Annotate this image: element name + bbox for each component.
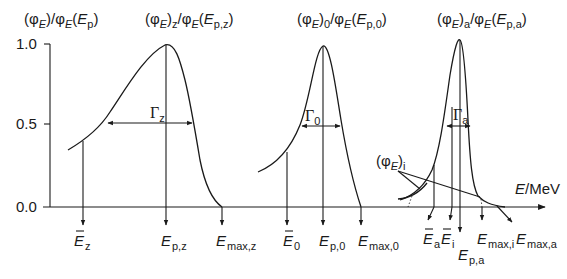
svg-text:max,0: max,0: [369, 240, 399, 252]
y-tick-label-1: 1.0: [16, 35, 37, 52]
y-tick-label-0: 0.0: [16, 198, 37, 215]
arrow-Emax-a: [497, 206, 512, 222]
x-marker-Emax-a: E max,a: [516, 230, 558, 250]
svg-text:E: E: [358, 232, 369, 249]
svg-text:max,a: max,a: [527, 238, 558, 250]
x-marker-Emax-z: E max,z: [216, 232, 256, 252]
svg-text:0: 0: [294, 240, 300, 252]
pointer-phi-i-2: [398, 171, 480, 197]
svg-text:a: a: [434, 238, 441, 250]
dotted-phi-i: [408, 196, 412, 207]
svg-text:E: E: [516, 230, 527, 247]
peak-z-curve: [68, 45, 222, 207]
svg-text:E: E: [216, 232, 227, 249]
gamma-z-label: Γz: [150, 104, 165, 124]
peak-a-title: (φE)a/φE(Ep,a): [437, 10, 527, 30]
svg-text:E: E: [283, 232, 294, 249]
x-marker-Ebar-0: E 0: [283, 231, 300, 252]
phi-i-label: (φE)i: [376, 152, 406, 172]
svg-text:z: z: [85, 240, 91, 252]
y-tick-label-05: 0.5: [16, 115, 37, 132]
svg-text:max,z: max,z: [227, 240, 256, 252]
dotted-Emax-i: [481, 199, 482, 207]
svg-text:i: i: [452, 238, 454, 250]
svg-text:E: E: [161, 232, 172, 249]
x-marker-Ebar-z: E z: [74, 231, 91, 252]
svg-text:max,i: max,i: [488, 238, 514, 250]
svg-text:E: E: [477, 230, 488, 247]
svg-text:p,0: p,0: [330, 240, 345, 252]
x-marker-Emax-i: E max,i: [477, 230, 514, 250]
svg-text:p,z: p,z: [172, 240, 187, 252]
arrow-Ebar-i: [450, 207, 452, 220]
peak-z-title: (φE)z/φE(Ep,z): [145, 10, 234, 30]
svg-text:E: E: [458, 246, 469, 263]
svg-text:E: E: [74, 232, 85, 249]
pointer-phi-i-1: [398, 171, 420, 189]
x-marker-Emax-0: E max,0: [358, 232, 399, 252]
svg-text:E: E: [423, 230, 434, 247]
x-marker-Ep-a: E p,a: [458, 246, 485, 266]
y-axis-label: (φE)/φE(Ep): [24, 10, 98, 30]
gamma-0-label: Γ0: [305, 107, 320, 127]
x-axis-label: E/MeV: [515, 180, 560, 197]
svg-text:E: E: [441, 230, 452, 247]
svg-text:p,a: p,a: [469, 254, 485, 266]
x-marker-Ep-0: E p,0: [319, 232, 345, 252]
spectrum-diagram: (φE)/φE(Ep) 1.0 0.5 0.0 E/MeV (φE)z/φE(E…: [0, 0, 567, 279]
x-marker-Ebar-i: E i: [441, 229, 454, 250]
x-marker-Ebar-a: E a: [423, 229, 441, 250]
peak-0-title: (φE)0/φE(Ep,0): [297, 10, 387, 30]
x-marker-Ep-z: E p,z: [161, 232, 187, 252]
svg-text:E: E: [319, 232, 330, 249]
arrow-Ebar-a: [428, 207, 434, 220]
